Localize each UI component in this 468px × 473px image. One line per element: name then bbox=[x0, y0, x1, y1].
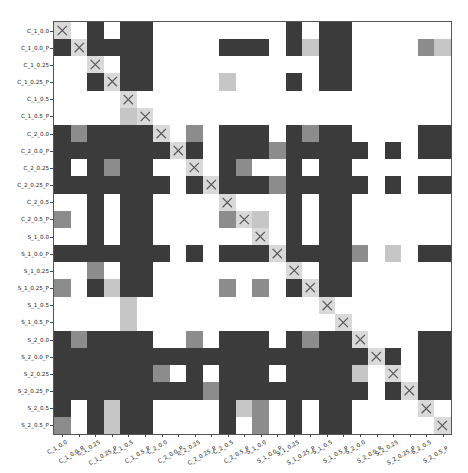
heatmap-cell bbox=[104, 262, 121, 279]
heatmap-cell bbox=[368, 125, 385, 142]
heatmap-cell bbox=[203, 382, 220, 399]
heatmap-cell bbox=[104, 400, 121, 417]
x-tick bbox=[178, 434, 179, 437]
heatmap-cell bbox=[87, 382, 104, 399]
x-tick bbox=[145, 434, 146, 437]
x-mark-icon bbox=[319, 297, 336, 314]
diagonal-cell bbox=[71, 39, 88, 56]
heatmap-cell bbox=[286, 56, 303, 73]
heatmap-cell bbox=[236, 245, 253, 262]
heatmap-cell bbox=[219, 159, 236, 176]
heatmap-cell bbox=[137, 314, 154, 331]
x-mark-icon bbox=[186, 159, 203, 176]
heatmap-cell bbox=[401, 91, 418, 108]
heatmap-cell bbox=[54, 314, 71, 331]
heatmap-cell bbox=[286, 365, 303, 382]
diagonal-cell bbox=[87, 56, 104, 73]
heatmap-cell bbox=[153, 228, 170, 245]
heatmap-cell bbox=[137, 73, 154, 90]
heatmap-cell bbox=[401, 400, 418, 417]
heatmap-cell bbox=[219, 125, 236, 142]
heatmap-cell bbox=[71, 228, 88, 245]
heatmap-cell bbox=[401, 142, 418, 159]
heatmap-cell bbox=[434, 194, 451, 211]
heatmap-cell bbox=[186, 142, 203, 159]
heatmap-cell bbox=[401, 211, 418, 228]
heatmap-cell bbox=[252, 91, 269, 108]
x-axis-label: C_1_0.5_P bbox=[124, 445, 151, 464]
heatmap-cell bbox=[203, 142, 220, 159]
heatmap-cell bbox=[153, 159, 170, 176]
heatmap-cell bbox=[87, 331, 104, 348]
heatmap-cell bbox=[368, 108, 385, 125]
y-tick bbox=[50, 322, 53, 323]
heatmap-cell bbox=[71, 73, 88, 90]
heatmap-cell bbox=[186, 176, 203, 193]
heatmap-cell bbox=[352, 365, 369, 382]
heatmap-cell bbox=[302, 348, 319, 365]
heatmap-cell bbox=[352, 211, 369, 228]
diagonal-cell bbox=[236, 211, 253, 228]
x-mark-icon bbox=[434, 417, 451, 434]
heatmap-cell bbox=[385, 56, 402, 73]
heatmap-cell bbox=[418, 228, 435, 245]
y-tick bbox=[50, 99, 53, 100]
heatmap-cell bbox=[186, 108, 203, 125]
heatmap-cell bbox=[219, 39, 236, 56]
heatmap-cell bbox=[170, 211, 187, 228]
heatmap-cell bbox=[54, 279, 71, 296]
heatmap-cell bbox=[186, 91, 203, 108]
heatmap-cell bbox=[319, 194, 336, 211]
heatmap-cell bbox=[170, 314, 187, 331]
y-tick bbox=[50, 31, 53, 32]
heatmap-cell bbox=[71, 365, 88, 382]
heatmap-cell bbox=[219, 400, 236, 417]
heatmap-cell bbox=[352, 56, 369, 73]
heatmap-cell bbox=[352, 194, 369, 211]
heatmap-cell bbox=[71, 159, 88, 176]
heatmap-cell bbox=[252, 382, 269, 399]
heatmap-cell bbox=[335, 382, 352, 399]
heatmap-cell bbox=[352, 245, 369, 262]
x-mark-icon bbox=[286, 262, 303, 279]
heatmap-cell bbox=[302, 365, 319, 382]
heatmap-cell bbox=[252, 279, 269, 296]
heatmap-cell bbox=[319, 211, 336, 228]
heatmap-cell bbox=[71, 262, 88, 279]
heatmap-cell bbox=[170, 194, 187, 211]
x-tick bbox=[128, 434, 129, 437]
heatmap-cell bbox=[87, 22, 104, 39]
x-tick bbox=[277, 434, 278, 437]
heatmap-cell bbox=[71, 245, 88, 262]
heatmap-cell bbox=[385, 159, 402, 176]
heatmap-cell bbox=[137, 22, 154, 39]
heatmap-cell bbox=[153, 211, 170, 228]
heatmap-cell bbox=[120, 73, 137, 90]
diagonal-cell bbox=[352, 331, 369, 348]
heatmap-cell bbox=[104, 159, 121, 176]
heatmap-cell bbox=[418, 176, 435, 193]
heatmap-cell bbox=[269, 91, 286, 108]
heatmap-cell bbox=[54, 108, 71, 125]
x-tick bbox=[62, 434, 63, 437]
heatmap-cell bbox=[186, 382, 203, 399]
heatmap-cell bbox=[120, 279, 137, 296]
heatmap-cell bbox=[269, 382, 286, 399]
x-tick bbox=[294, 434, 295, 437]
heatmap-cell bbox=[434, 56, 451, 73]
diagonal-cell bbox=[335, 314, 352, 331]
heatmap-cell bbox=[335, 22, 352, 39]
heatmap-cell bbox=[418, 91, 435, 108]
heatmap-cell bbox=[54, 365, 71, 382]
heatmap-cell bbox=[368, 400, 385, 417]
heatmap-cell bbox=[120, 314, 137, 331]
heatmap-cell bbox=[286, 382, 303, 399]
heatmap-cell bbox=[286, 39, 303, 56]
heatmap-cell bbox=[71, 348, 88, 365]
heatmap-cell bbox=[352, 314, 369, 331]
x-mark-icon bbox=[153, 125, 170, 142]
y-axis-label: S_2_0.5 bbox=[27, 405, 49, 411]
heatmap-cell bbox=[71, 297, 88, 314]
x-mark-icon bbox=[87, 56, 104, 73]
heatmap-cell bbox=[302, 211, 319, 228]
